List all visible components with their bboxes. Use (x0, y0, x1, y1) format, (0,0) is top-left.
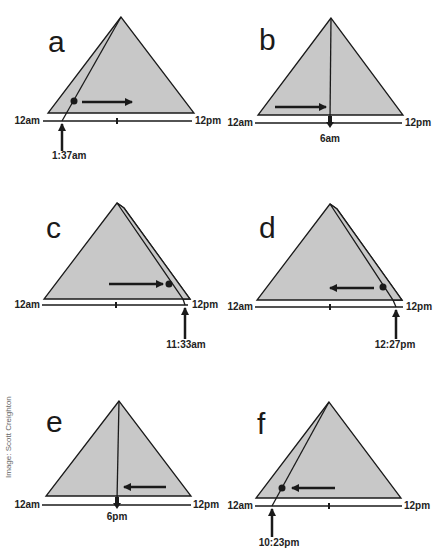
time-label: 10:23pm (259, 537, 300, 548)
panel-letter: e (46, 405, 63, 438)
panel-letter: b (259, 23, 276, 56)
sun-position-dot (279, 485, 286, 492)
sun-position-dot (380, 284, 387, 291)
time-label: 6pm (107, 511, 128, 522)
timeline-end-label: 12pm (405, 117, 431, 128)
timeline-start-label: 12am (14, 299, 40, 310)
panel-letter: a (48, 25, 65, 58)
timeline-end-label: 12pm (404, 500, 430, 511)
midday-tick (115, 302, 117, 308)
timeline-end-label: 12pm (406, 301, 432, 312)
panel-f: f 12am 12pm 10:23pm (227, 402, 430, 548)
midday-tick (116, 118, 118, 124)
timeline-start-label: 12am (14, 499, 40, 510)
panel-a: a 12am 12pm 1:37am (14, 17, 221, 161)
pyramid-shape (48, 17, 194, 113)
midday-tick (328, 116, 332, 122)
midday-tick (328, 503, 330, 509)
panel-letter: c (46, 211, 61, 244)
shadow-line (393, 300, 396, 307)
timeline-start-label: 12am (14, 115, 40, 126)
shadow-line (183, 299, 185, 305)
timeline-start-label: 12am (227, 500, 253, 511)
time-label: 1:37am (52, 150, 87, 161)
time-label: 11:33am (166, 339, 206, 350)
timeline-end-label: 12pm (195, 115, 221, 126)
panel-b: b 12am 12pm 6am (227, 18, 431, 144)
panel-c: c 12am 12pm 11:33am (14, 203, 218, 350)
panel-letter: d (259, 211, 276, 244)
image-credit: Image: Scott Creighton (4, 396, 13, 478)
pyramid-sundial-diagram: a 12am 12pm 1:37am b 12am 12pm 6am c 12 (0, 0, 447, 556)
timeline-end-label: 12pm (192, 299, 218, 310)
midday-tick (115, 497, 119, 503)
shadow-pointer-icon (326, 122, 334, 128)
panel-letter: f (257, 407, 266, 440)
panel-d: d 12am 12pm 12:27pm (227, 204, 432, 350)
pyramid-shape (256, 402, 401, 498)
shadow-pointer-icon (113, 503, 121, 509)
timeline-start-label: 12am (227, 301, 253, 312)
time-label: 12:27pm (375, 339, 416, 350)
midday-tick (329, 304, 331, 310)
timeline-start-label: 12am (227, 117, 253, 128)
timeline-end-label: 12pm (193, 499, 219, 510)
panel-e: e 12am 12pm 6pm (14, 401, 219, 522)
time-label: 6am (320, 133, 340, 144)
sun-position-dot (71, 98, 78, 105)
sun-position-dot (166, 281, 173, 288)
